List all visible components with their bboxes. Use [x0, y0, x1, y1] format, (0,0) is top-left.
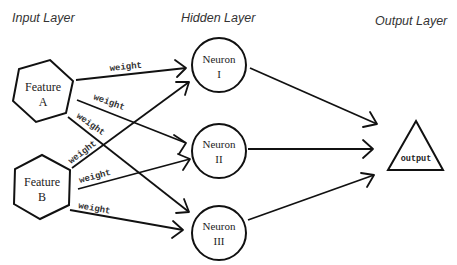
node-label-line1: Feature [25, 80, 61, 94]
circle-shape [192, 206, 246, 260]
hidden-node-neuron-3: Neuron III [192, 206, 246, 260]
output-node: output [388, 121, 443, 170]
edge-weight-label: weight [109, 61, 142, 74]
node-label-line1: Neuron [203, 53, 236, 65]
circle-shape [192, 124, 246, 178]
hidden-node-neuron-2: Neuron II [192, 124, 246, 178]
hidden-node-neuron-1: Neuron I [192, 38, 246, 92]
node-label-line1: Neuron [203, 138, 236, 150]
edge-b-n2: weight [78, 154, 190, 189]
node-label-line2: III [214, 235, 225, 247]
edge-a-n1: weight [76, 60, 186, 80]
edge-b-n3: weight [70, 201, 183, 238]
edge-weight-label: weight [92, 92, 126, 112]
output-layer-title: Output Layer [375, 14, 448, 28]
edge-n3-output [248, 173, 374, 220]
node-label-line2: II [215, 153, 223, 165]
node-label-line2: B [38, 190, 46, 204]
edge-n1-output [250, 68, 377, 127]
input-node-feature-a: Feature A [13, 60, 73, 122]
input-node-feature-b: Feature B [14, 155, 70, 219]
input-layer-title: Input Layer [12, 11, 75, 25]
node-label-line1: Neuron [203, 220, 236, 232]
hidden-layer-title: Hidden Layer [181, 11, 256, 25]
edge-n2-output [248, 140, 373, 158]
circle-shape [192, 38, 246, 92]
edge-weight-label: weight [78, 168, 112, 186]
neural-network-diagram: Input Layer Hidden Layer Output Layer we… [0, 0, 457, 265]
node-label-line2: I [217, 68, 221, 80]
node-label-line1: Feature [24, 175, 60, 189]
node-label-line2: A [39, 95, 48, 109]
output-node-label: output [401, 154, 432, 164]
